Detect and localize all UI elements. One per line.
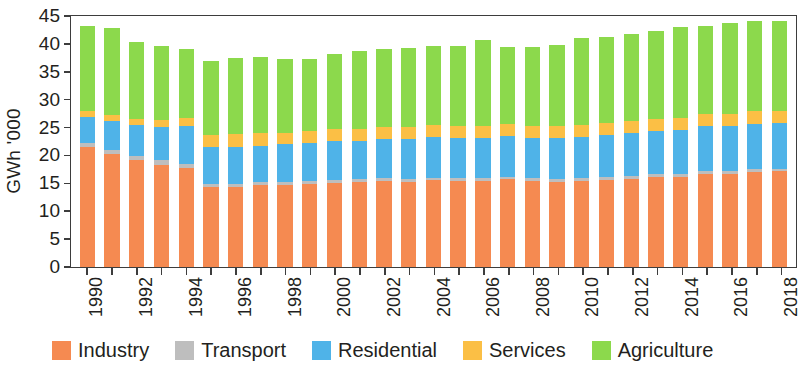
legend-swatch-icon [312,341,331,360]
bar-column[interactable] [396,16,421,267]
bar-segment-services [648,119,663,131]
bar-segment-agriculture [624,34,639,121]
bar-segment-agriculture [253,57,268,133]
bar-column[interactable] [446,16,471,267]
bar-column[interactable] [545,16,570,267]
x-axis-label-slot: 2014 [669,275,694,327]
bar-column[interactable] [372,16,397,267]
bar-column[interactable] [742,16,767,267]
legend-label: Residential [338,339,437,362]
y-axis-tick-label: 25 [39,117,64,139]
bar-segment-agriculture [673,27,688,118]
y-axis-tick-mark [64,238,71,240]
x-axis-tick [421,268,446,275]
bar-column[interactable] [248,16,273,267]
x-axis-label-slot [545,275,570,327]
bar-column[interactable] [495,16,520,267]
bar-segment-services [401,127,416,139]
bar-stack [401,48,416,267]
bar-column[interactable] [347,16,372,267]
bar-segment-industry [722,174,737,267]
x-axis-tick [198,268,223,275]
bar-stack [673,27,688,267]
y-axis-tick-label: 15 [39,172,64,194]
bar-segment-services [129,119,144,126]
bar-segment-residential [80,117,95,143]
bar-stack [352,51,367,267]
x-axis-label-slot: 1994 [173,275,198,327]
legend-label: Services [489,339,566,362]
x-axis-label-slot [148,275,173,327]
bar-stack [104,28,119,267]
x-axis-tick [744,268,769,275]
bar-stack [624,34,639,267]
bar-segment-services [525,126,540,138]
legend-item-services[interactable]: Services [463,339,566,362]
bar-column[interactable] [668,16,693,267]
bar-column[interactable] [644,16,669,267]
legend-item-industry[interactable]: Industry [52,339,149,362]
bar-segment-industry [302,184,317,267]
x-axis-label-slot [297,275,322,327]
bar-segment-agriculture [426,46,441,126]
legend-item-agriculture[interactable]: Agriculture [592,339,714,362]
bar-segment-industry [352,182,367,267]
x-axis-tick [545,268,570,275]
bar-segment-services [747,111,762,123]
x-axis-label-slot [99,275,124,327]
bar-series-container [71,16,796,267]
bar-column[interactable] [75,16,100,267]
x-axis-label-slot [644,275,669,327]
bar-stack [376,49,391,267]
bar-column[interactable] [718,16,743,267]
bar-segment-residential [673,130,688,174]
bar-column[interactable] [471,16,496,267]
bar-segment-industry [154,165,169,267]
bar-column[interactable] [421,16,446,267]
bar-column[interactable] [693,16,718,267]
bar-stack [327,54,342,267]
bar-segment-residential [624,133,639,176]
bar-column[interactable] [174,16,199,267]
y-axis-tick-mark [64,43,71,45]
y-axis-tick: 20 [39,144,71,166]
bar-column[interactable] [767,16,792,267]
x-axis-tick [173,268,198,275]
bar-segment-industry [80,147,95,267]
bar-column[interactable] [149,16,174,267]
bar-segment-industry [772,171,787,267]
bar-column[interactable] [199,16,224,267]
bar-column[interactable] [594,16,619,267]
bar-column[interactable] [520,16,545,267]
y-axis-tick-label: 35 [39,61,64,83]
bar-stack [722,23,737,267]
bar-segment-agriculture [203,61,218,135]
bar-column[interactable] [273,16,298,267]
x-axis-tick [520,268,545,275]
bar-stack [253,57,268,267]
bar-column[interactable] [297,16,322,267]
x-axis-tick [74,268,99,275]
x-axis-tick [99,268,124,275]
legend-item-residential[interactable]: Residential [312,339,437,362]
y-axis-tick: 45 [39,5,71,27]
bar-column[interactable] [322,16,347,267]
x-axis-labels: 1990199219941996199820002002200420062008… [70,275,797,327]
x-axis-label-slot [347,275,372,327]
bar-column[interactable] [223,16,248,267]
y-axis-tick: 10 [39,200,71,222]
bar-segment-agriculture [722,23,737,114]
x-axis-tick [272,268,297,275]
y-axis-tick-label: 30 [39,89,64,111]
bar-segment-services [154,120,169,127]
bar-segment-agriculture [475,40,490,127]
bar-segment-services [376,127,391,139]
bar-segment-agriculture [376,49,391,127]
bar-column[interactable] [619,16,644,267]
bar-column[interactable] [124,16,149,267]
bar-column[interactable] [569,16,594,267]
bar-segment-residential [525,138,540,178]
plot-area: 051015202530354045 [70,15,797,268]
bar-column[interactable] [100,16,125,267]
legend-item-transport[interactable]: Transport [175,339,286,362]
